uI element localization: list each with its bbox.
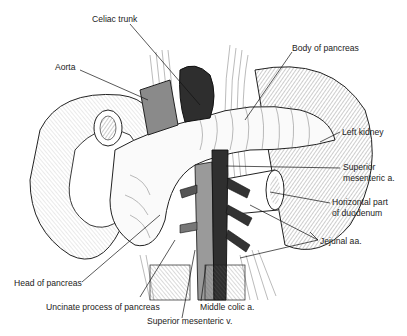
label-superior-mesenteric-artery-line1: Superior bbox=[343, 162, 375, 172]
label-aorta: Aorta bbox=[55, 62, 76, 72]
label-body-of-pancreas: Body of pancreas bbox=[292, 43, 359, 53]
label-middle-colic-artery: Middle colic a. bbox=[200, 302, 254, 312]
celiac-trunk-shape bbox=[180, 66, 214, 122]
anatomy-figure: Celiac trunk Body of pancreas Aorta Left… bbox=[0, 0, 407, 336]
label-celiac-trunk: Celiac trunk bbox=[92, 14, 137, 24]
label-jejunal-arteries: Jejunal aa. bbox=[320, 236, 362, 246]
label-uncinate-process: Uncinate process of pancreas bbox=[46, 302, 160, 312]
label-superior-mesenteric-vein: Superior mesenteric v. bbox=[147, 316, 232, 326]
label-horizontal-duodenum-line2: of duodenum bbox=[332, 208, 382, 218]
left-kidney-shape bbox=[255, 67, 372, 250]
label-superior-mesenteric-artery-line2: mesenteric a. bbox=[343, 173, 395, 183]
label-head-of-pancreas: Head of pancreas bbox=[14, 278, 82, 288]
label-left-kidney: Left kidney bbox=[342, 127, 384, 137]
label-horizontal-duodenum-line1: Horizontal part bbox=[332, 197, 388, 207]
